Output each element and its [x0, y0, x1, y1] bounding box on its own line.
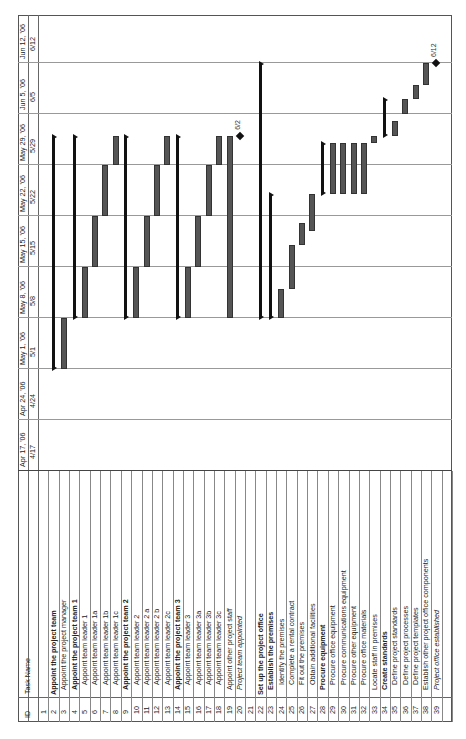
task-id: 24: [277, 706, 287, 714]
task-bar[interactable]: [185, 267, 191, 318]
task-bar[interactable]: [351, 143, 357, 194]
task-name[interactable]: Procure office materials: [359, 610, 369, 685]
task-bar[interactable]: [154, 165, 160, 216]
milestone-date-label: 6/12: [430, 43, 437, 57]
task-bar[interactable]: [309, 194, 315, 230]
summary-bar[interactable]: [321, 143, 324, 194]
summary-bar[interactable]: [269, 194, 272, 318]
task-bar[interactable]: [330, 143, 336, 194]
task-bar[interactable]: [340, 143, 346, 194]
summary-bar[interactable]: [383, 99, 386, 135]
task-bar[interactable]: [82, 267, 88, 318]
task-id: 15: [183, 706, 193, 714]
summary-bar[interactable]: [52, 136, 55, 369]
summary-bar[interactable]: [259, 63, 262, 318]
task-name[interactable]: Appoint team leader 2 b: [152, 609, 162, 685]
task-name[interactable]: Define project standards: [390, 607, 400, 685]
task-bar[interactable]: [227, 136, 233, 318]
task-name[interactable]: Appoint the project team 3: [173, 599, 183, 690]
task-name[interactable]: Appoint team leader 2 a: [142, 609, 152, 685]
task-bar[interactable]: [144, 216, 150, 267]
task-name[interactable]: Appoint team leader 1: [80, 615, 90, 685]
task-bar[interactable]: [133, 267, 139, 318]
task-id: 14: [173, 706, 183, 714]
task-name[interactable]: Establish other project office component…: [421, 559, 431, 690]
task-name[interactable]: Complete a rental contract: [287, 601, 297, 685]
task-id: 37: [411, 706, 421, 714]
task-name[interactable]: Procure office equipment: [328, 605, 338, 685]
task-name[interactable]: Establish the premises: [266, 612, 276, 690]
task-id: 19: [225, 706, 235, 714]
task-name[interactable]: Appoint team leader 1a: [90, 611, 100, 685]
task-name[interactable]: Appoint the project team 2: [121, 599, 131, 690]
day-label: 5/15: [28, 241, 38, 255]
task-name[interactable]: Procure other equipment: [349, 606, 359, 685]
task-name[interactable]: Identify the premises: [277, 619, 287, 685]
week-label: Jun 5, '06: [18, 79, 28, 110]
task-bar[interactable]: [92, 216, 98, 267]
task-bar[interactable]: [195, 216, 201, 267]
task-name[interactable]: Appoint team leader 3c: [214, 611, 224, 685]
task-id: 8: [111, 710, 121, 714]
task-id: 3: [59, 710, 69, 714]
task-name[interactable]: Obtain additional facilities: [308, 603, 318, 685]
task-bar[interactable]: [361, 143, 367, 194]
task-name[interactable]: Define project templates: [411, 607, 421, 685]
task-bar[interactable]: [216, 136, 222, 165]
task-bar[interactable]: [299, 223, 305, 245]
task-bar[interactable]: [278, 289, 284, 318]
task-bar[interactable]: [423, 63, 429, 85]
task-bar[interactable]: [113, 136, 119, 165]
task-bar[interactable]: [61, 318, 67, 369]
task-name[interactable]: Appoint the project manager: [59, 600, 69, 690]
task-bar[interactable]: [392, 121, 398, 136]
week-gridline: [18, 368, 452, 369]
task-bar[interactable]: [402, 99, 408, 114]
task-bar[interactable]: [371, 136, 377, 143]
task-bar[interactable]: [102, 165, 108, 216]
week-gridline: [18, 62, 452, 63]
summary-bar[interactable]: [176, 136, 179, 318]
task-name[interactable]: Fit out the premises: [297, 622, 307, 685]
task-name[interactable]: Appoint team leader 2: [132, 615, 142, 685]
task-name[interactable]: Appoint team leader 2c: [163, 611, 173, 685]
task-id: 34: [380, 706, 390, 714]
task-id: 39: [432, 706, 442, 714]
task-name[interactable]: Locate staff in premises: [370, 614, 380, 690]
day-label: 6/12: [28, 37, 38, 51]
task-id: 35: [390, 706, 400, 714]
summary-bar[interactable]: [124, 136, 127, 318]
task-name[interactable]: Procure equipment: [318, 625, 328, 691]
task-name[interactable]: Set up the project office: [256, 613, 266, 695]
task-name[interactable]: Procure communications equipment: [339, 570, 349, 685]
week-label: Jun 12, '06: [18, 24, 28, 59]
task-id: 16: [194, 706, 204, 714]
week-gridline: [18, 419, 452, 420]
task-id: 25: [287, 706, 297, 714]
gantt-chart: IDTask NameApr 17, '064/17Apr 24, '064/2…: [0, 0, 466, 739]
week-label: Apr 17, '06: [18, 432, 28, 467]
week-label: May 8, '06: [18, 281, 28, 314]
task-id: 1: [39, 710, 49, 714]
task-bar[interactable]: [164, 136, 170, 165]
task-id: 4: [70, 710, 80, 714]
task-name[interactable]: Appoint team leader 3a: [194, 611, 204, 685]
task-name[interactable]: Project office established: [432, 610, 442, 690]
day-label: 4/24: [28, 394, 38, 408]
task-name[interactable]: Create standards: [380, 631, 390, 690]
summary-bar[interactable]: [73, 136, 76, 318]
task-bar[interactable]: [289, 245, 295, 289]
task-id: 23: [266, 706, 276, 714]
task-name[interactable]: Appoint team leader 3b: [204, 611, 214, 685]
task-id: 21: [246, 706, 256, 714]
task-name[interactable]: Project team appointed: [235, 616, 245, 690]
task-name[interactable]: Define project processes: [401, 606, 411, 685]
task-name[interactable]: Appoint team leader 1b: [101, 611, 111, 685]
task-name[interactable]: Appoint team leader 1c: [111, 611, 121, 685]
task-name[interactable]: Appoint other project staff: [225, 608, 235, 690]
task-name[interactable]: Appoint the project team: [49, 610, 59, 695]
task-name[interactable]: Appoint the project team 1: [70, 599, 80, 690]
task-bar[interactable]: [413, 85, 419, 100]
task-bar[interactable]: [206, 165, 212, 216]
task-name[interactable]: Appoint team leader 3: [183, 615, 193, 685]
